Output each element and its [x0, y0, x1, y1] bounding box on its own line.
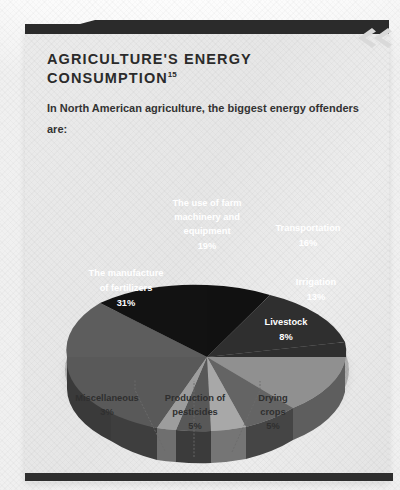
- pie-wall-drying: [211, 427, 246, 463]
- label-fertilizers-line1: The manufacture: [89, 268, 164, 278]
- page-title-superscript: 15: [168, 70, 177, 79]
- value-livestock: 8%: [279, 332, 293, 342]
- value-irrigation: 13%: [307, 292, 326, 302]
- page-title-text: AGRICULTURE'S ENERGY CONSUMPTION: [47, 51, 252, 86]
- label-drying-crops-line2: crops: [260, 407, 285, 417]
- label-pesticides-line2: pesticides: [172, 407, 217, 417]
- label-farm-machinery-line3: equipment: [183, 226, 230, 236]
- page-subtitle: In North American agriculture, the bigge…: [47, 98, 365, 141]
- pie-chart: The use of farm machinery and equipment …: [25, 152, 389, 482]
- value-pesticides: 5%: [188, 421, 202, 431]
- value-drying-crops: 5%: [266, 421, 280, 431]
- label-miscellaneous: Miscellaneous: [75, 393, 139, 403]
- label-transportation: Transportation: [275, 223, 340, 233]
- footer-accent-bar: [25, 473, 393, 481]
- label-farm-machinery-line2: machinery and: [174, 212, 240, 222]
- value-transportation: 16%: [299, 238, 318, 248]
- double-chevron-left-icon: [356, 26, 392, 50]
- label-irrigation: Irrigation: [296, 277, 337, 287]
- label-livestock: Livestock: [265, 317, 309, 327]
- label-drying-crops-line1: Drying: [258, 393, 288, 403]
- value-fertilizers: 31%: [117, 298, 136, 308]
- pie-wall-pesticides: [176, 430, 211, 463]
- pie-chart-svg: The use of farm machinery and equipment …: [25, 152, 389, 482]
- label-farm-machinery-line1: The use of farm: [172, 198, 241, 208]
- pie-wall-miscellaneous: [157, 428, 176, 462]
- value-miscellaneous: 3%: [100, 407, 114, 417]
- infographic-card: AGRICULTURE'S ENERGY CONSUMPTION15 In No…: [25, 32, 389, 482]
- label-pesticides-line1: Production of: [165, 393, 226, 403]
- value-farm-machinery: 19%: [198, 241, 217, 251]
- label-fertilizers-line2: of fertilizers: [100, 283, 153, 293]
- page-title: AGRICULTURE'S ENERGY CONSUMPTION15: [47, 50, 347, 88]
